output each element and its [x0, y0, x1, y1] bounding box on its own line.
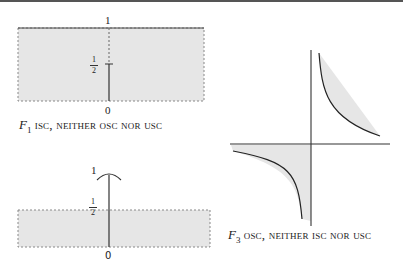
f3-caption-sub: 3	[236, 235, 241, 245]
f3-caption: F3 osc, neither isc nor usc	[228, 227, 371, 245]
f2-half-label: 1 2	[89, 198, 97, 217]
f1-caption-sub: 1	[27, 125, 32, 135]
f1-caption: F1 isc, neither osc nor usc	[19, 117, 162, 135]
panel-f2-graph	[18, 174, 210, 247]
f2-half-den: 2	[91, 208, 95, 217]
f3-caption-text: osc, neither isc nor usc	[244, 227, 372, 242]
f2-top-label: 1	[91, 164, 97, 176]
f3-lower-shade	[231, 145, 311, 221]
panel-f3-graph	[230, 50, 390, 226]
f1-half-den: 2	[92, 66, 96, 75]
f1-caption-name: F	[19, 117, 27, 132]
panel-f1-graph	[18, 28, 204, 101]
f1-zero-label: 0	[105, 104, 111, 116]
f1-top-label: 1	[105, 14, 111, 26]
f2-half-num: 1	[91, 197, 95, 206]
f1-caption-text: isc, neither osc nor usc	[35, 117, 163, 132]
f3-caption-name: F	[228, 227, 236, 242]
f1-half-num: 1	[92, 55, 96, 64]
f2-shaded-region	[18, 210, 210, 247]
f3-upper-shade	[319, 53, 380, 136]
f2-zero-label: 0	[105, 250, 111, 261]
f1-half-label: 1 2	[90, 56, 98, 75]
